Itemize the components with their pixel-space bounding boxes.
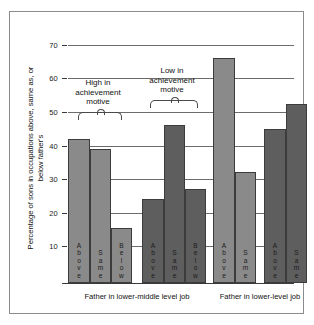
letter: A — [143, 242, 163, 249]
letter: e — [186, 249, 205, 256]
letter: m — [287, 264, 306, 271]
letter: o — [265, 257, 285, 264]
letter: A — [214, 242, 234, 249]
gridline-70 — [68, 45, 294, 46]
letter: l — [112, 257, 131, 264]
bar-letters-same: S a m e — [287, 249, 306, 279]
annotation-high-line3: motive — [60, 97, 136, 107]
letter: e — [69, 272, 89, 279]
letter: e — [265, 272, 285, 279]
letter: B — [186, 242, 205, 249]
brace-high-achievement — [78, 112, 122, 120]
ytick-mark-50 — [62, 112, 67, 113]
annotation-high-line1: High in — [60, 78, 136, 88]
bar-g1-above: A b o v e — [68, 139, 90, 283]
bar-letters-same: S a m e — [236, 249, 255, 279]
letter: w — [112, 272, 131, 279]
letter: b — [143, 249, 163, 256]
letter: w — [186, 272, 205, 279]
ytick-mark-20 — [62, 213, 67, 214]
letter: B — [112, 242, 131, 249]
bar-g4-same: S a m e — [286, 104, 307, 283]
bar-g2-same: S a m e — [164, 125, 185, 283]
bar-letters-below: B e l o w — [186, 242, 205, 279]
bar-letters-same: S a m e — [165, 249, 184, 279]
letter: b — [214, 249, 234, 256]
annotation-low-line2: achievement — [134, 76, 210, 86]
letter: v — [214, 264, 234, 271]
bar-letters-above: A b o v e — [214, 242, 234, 279]
bar-g1-same: S a m e — [90, 149, 111, 283]
letter: S — [165, 249, 184, 256]
letter: a — [236, 257, 255, 264]
ytick-mark-70 — [62, 45, 67, 46]
letter: a — [165, 257, 184, 264]
annotation-high-line2: achievement — [60, 88, 136, 98]
letter: e — [236, 272, 255, 279]
bar-letters-above: A b o v e — [265, 242, 285, 279]
letter: e — [287, 272, 306, 279]
bar-g3-same: S a m e — [235, 172, 256, 283]
xlabel-lower-level-job: Father in lower-level job — [208, 292, 312, 301]
letter: l — [186, 257, 205, 264]
letter: S — [236, 249, 255, 256]
letter: v — [143, 264, 163, 271]
bar-g2-above: A b o v e — [142, 199, 164, 283]
letter: a — [287, 257, 306, 264]
annotation-low-line3: motive — [134, 85, 210, 95]
bar-g2-below: B e l o w — [185, 189, 206, 283]
letter: e — [143, 272, 163, 279]
letter: m — [165, 264, 184, 271]
letter: o — [112, 264, 131, 271]
ytick-label-70: 70 — [42, 41, 58, 50]
letter: b — [69, 249, 89, 256]
letter: a — [91, 257, 110, 264]
ytick-mark-30 — [62, 179, 67, 180]
bar-g1-below: B e l o w — [111, 228, 132, 283]
bar-letters-above: A b o v e — [143, 242, 163, 279]
bar-g4-above: A b o v e — [264, 129, 286, 283]
letter: o — [143, 257, 163, 264]
letter: v — [69, 264, 89, 271]
letter: A — [69, 242, 89, 249]
letter: S — [287, 249, 306, 256]
xlabel-lower-middle-level-job: Father in lower-middle level job — [66, 292, 208, 301]
letter: e — [91, 272, 110, 279]
brace-low-achievement — [150, 100, 198, 108]
bar-letters-same: S a m e — [91, 249, 110, 279]
plot-area: 70 60 50 40 30 20 10 Percentage of sons … — [0, 0, 314, 325]
annotation-high-achievement: High in achievement motive — [60, 78, 136, 107]
ytick-mark-10 — [62, 246, 67, 247]
annotation-low-line1: Low in — [134, 66, 210, 76]
letter: e — [214, 272, 234, 279]
letter: b — [265, 249, 285, 256]
letter: A — [265, 242, 285, 249]
letter: m — [236, 264, 255, 271]
ytick-mark-40 — [62, 146, 67, 147]
bar-letters-above: A b o v e — [69, 242, 89, 279]
annotation-low-achievement: Low in achievement motive — [134, 66, 210, 95]
letter: S — [91, 249, 110, 256]
x-axis-baseline — [62, 283, 294, 284]
y-axis-title: Percentage of sons in occupations above,… — [26, 58, 46, 258]
letter: v — [265, 264, 285, 271]
letter: o — [69, 257, 89, 264]
letter: o — [186, 264, 205, 271]
bar-letters-below: B e l o w — [112, 242, 131, 279]
chart-screenshot: 70 60 50 40 30 20 10 Percentage of sons … — [0, 0, 314, 325]
letter: m — [91, 264, 110, 271]
letter: e — [112, 249, 131, 256]
letter: e — [165, 272, 184, 279]
bar-g3-above: A b o v e — [213, 58, 235, 283]
letter: o — [214, 257, 234, 264]
